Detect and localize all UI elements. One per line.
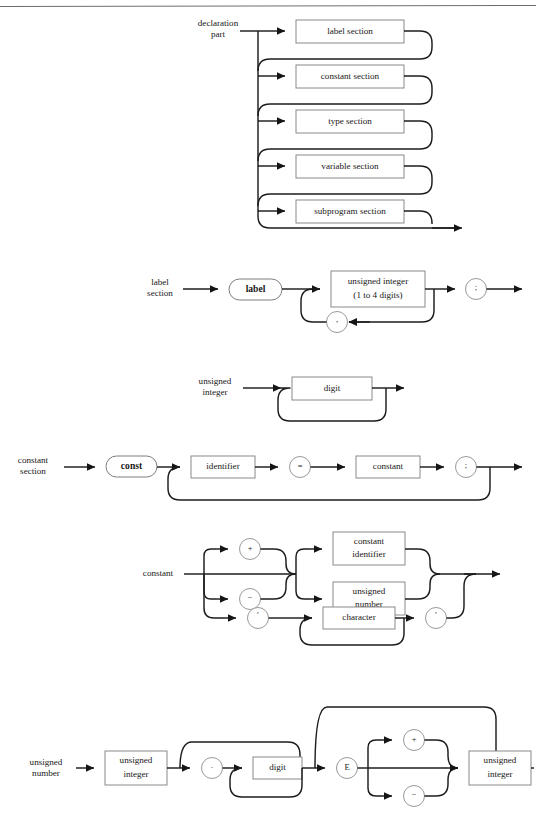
rail-exp-minus-out [425, 768, 459, 796]
diagram-label-unsigned-integer-line1: unsigned [199, 376, 232, 386]
diagram-constant-section: constant section const identifier = cons… [18, 455, 522, 500]
circle-comma-label-text: , [336, 315, 338, 324]
box-constant-identifier-line1: constant [354, 536, 385, 546]
diagram-unsigned-integer: unsigned integer digit [199, 376, 404, 421]
circle-equals-text: = [298, 462, 303, 471]
diagram-label-constant: constant [143, 568, 174, 578]
sign-spine-constant-down [204, 574, 216, 599]
box-unsigned-integer-1to4-line1: unsigned integer [348, 276, 408, 286]
circle-exponent-plus-text: + [412, 735, 417, 744]
circle-open-quote-text: ′ [257, 611, 259, 620]
diagram-label-unsigned-integer-line2: integer [202, 387, 227, 397]
diagram-label-section: label section label unsigned integer (1 … [147, 271, 522, 333]
diagram-unsigned-number: unsigned number unsigned integer . digit [30, 707, 534, 807]
rail-minus-out [261, 574, 297, 599]
diagram-label-declaration-part-line2: part [211, 29, 226, 39]
box-digit-fraction-text: digit [269, 762, 286, 772]
diagram-canvas: declaration part label section constant … [0, 0, 536, 833]
oval-const-keyword-text: const [121, 460, 143, 471]
circle-semicolon-constant-text: ; [465, 461, 467, 470]
diagram-declaration-part: declaration part label section constant … [198, 18, 462, 228]
box-unsigned-integer-1to4-line2: (1 to 4 digits) [353, 290, 402, 300]
sign-spine-constant-down2 [204, 574, 224, 618]
diagram-label-declaration-part-line1: declaration [198, 18, 239, 28]
box-variable-section-text: variable section [321, 161, 379, 171]
loop-rail-label-left [301, 289, 327, 322]
circle-decimal-point-text: . [211, 761, 213, 770]
circle-plus-constant-text: + [248, 544, 253, 553]
sign-spine-constant [204, 549, 216, 574]
exp-sign-spine-up [368, 740, 382, 768]
diagram-label-label-section-line1: label [151, 277, 169, 287]
rail-constant-identifier-out [405, 549, 440, 574]
circle-exponent-E-text: E [344, 763, 349, 772]
oval-label-keyword-text: label [246, 283, 266, 294]
box-unsigned-integer-mantissa-line2: integer [123, 769, 148, 779]
rail-close-quote-out [447, 574, 477, 618]
value-spine-constant [296, 549, 310, 574]
syntax-diagram-page: declaration part label section constant … [0, 0, 536, 833]
box-identifier-text: identifier [206, 461, 239, 471]
circle-close-quote-text: ′ [435, 611, 437, 620]
circle-exponent-minus-text: − [412, 790, 417, 799]
branch-out-5 [404, 211, 432, 224]
box-unsigned-integer-exponent-line1: unsigned [484, 755, 517, 765]
diagram-constant: constant + − constant [143, 532, 500, 645]
rail-plus-out [261, 549, 297, 574]
box-character-text: character [342, 612, 375, 622]
box-digit-unsigned-integer-text: digit [324, 383, 341, 393]
box-constant-section-text: constant section [321, 71, 380, 81]
box-unsigned-number-line1: unsigned [353, 586, 386, 596]
diagram-label-unsigned-number-line2: number [32, 768, 60, 778]
circle-semicolon-label-text: ; [475, 283, 477, 292]
box-constant-identifier-line2: identifier [352, 549, 385, 559]
box-constant-value-text: constant [373, 461, 404, 471]
top-rule [0, 6, 536, 7]
exp-sign-spine-down [368, 768, 382, 796]
diagram-label-label-section-line2: section [147, 288, 173, 298]
box-unsigned-integer-exponent-line2: integer [487, 769, 512, 779]
value-spine-constant-down [296, 574, 310, 599]
diagram-label-constant-section-line1: constant [18, 455, 49, 465]
diagram-label-unsigned-number-line1: unsigned [30, 757, 63, 767]
rail-exp-plus-out [425, 740, 459, 768]
diagram-label-constant-section-line2: section [20, 466, 46, 476]
box-label-section-text: label section [327, 26, 373, 36]
circle-minus-constant-text: − [248, 593, 253, 602]
box-type-section-text: type section [328, 116, 372, 126]
box-unsigned-integer-mantissa-line1: unsigned [120, 755, 153, 765]
rail-unsigned-number-out [405, 574, 440, 599]
box-subprogram-section-text: subprogram section [314, 206, 386, 216]
